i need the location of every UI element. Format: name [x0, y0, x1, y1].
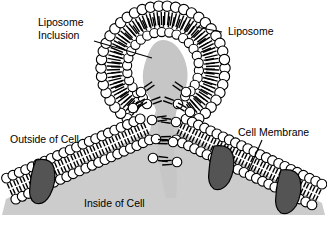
lipid-tail — [306, 184, 308, 189]
lipid-tail — [67, 157, 69, 162]
lipid-tail — [125, 132, 127, 137]
lipid-tail — [319, 190, 321, 195]
lipid-tail — [93, 146, 95, 151]
lipid-tail — [128, 130, 130, 135]
lipid-tail — [192, 129, 194, 134]
lipid-tail — [74, 162, 76, 167]
lipid-tail — [26, 183, 28, 188]
lipid-tail — [61, 160, 63, 165]
lipid-tail — [65, 158, 67, 163]
lipid-tail — [307, 192, 309, 197]
label-inside-of-cell: Inside of Cell — [84, 197, 145, 209]
lipid-head — [317, 179, 327, 189]
lipid-tail — [310, 185, 312, 190]
lipid-tail — [111, 72, 122, 73]
lipid-tail — [89, 155, 91, 160]
lipid-tail — [141, 124, 143, 129]
lipid-tail — [266, 165, 268, 170]
lipid-tail — [211, 138, 213, 143]
lipid-tail — [23, 177, 25, 182]
lipid-tail — [90, 147, 92, 152]
lipid-tail — [312, 187, 314, 192]
lipid-tail — [112, 137, 114, 142]
lipid-tail — [118, 134, 120, 139]
lipid-tail — [80, 151, 82, 156]
lipid-tail — [170, 13, 172, 26]
lipid-tail — [113, 80, 123, 83]
lipid-tail — [103, 141, 105, 146]
lipid-tail — [13, 189, 15, 194]
liposome-fusion-diagram: LiposomeInclusionLiposomeOutside of Cell… — [0, 0, 327, 227]
lipid-tail — [204, 63, 215, 64]
lipid-tail — [23, 184, 25, 189]
lipid-tail — [16, 179, 18, 184]
lipid-tail — [263, 163, 265, 168]
lipid-tail — [186, 126, 188, 131]
lipid-tail — [203, 58, 214, 60]
lipid-tail — [84, 150, 86, 155]
lipid-tail — [131, 129, 133, 134]
lipid-tail — [19, 186, 21, 191]
lipid-tail — [236, 150, 238, 155]
lipid-head — [219, 54, 229, 64]
lipid-tail — [201, 133, 203, 138]
lipid-tail — [162, 164, 172, 165]
lipid-tail — [248, 156, 250, 161]
label-outside-of-cell: Outside of Cell — [10, 133, 79, 145]
lipid-tail — [86, 156, 88, 161]
lipid-tail — [254, 159, 256, 164]
label-liposome: Liposome — [228, 25, 274, 37]
lipid-tail — [57, 169, 59, 174]
lipid-tail — [109, 138, 111, 143]
lipid-head — [181, 87, 191, 97]
lipid-tail — [77, 161, 79, 166]
lipid-tail — [96, 144, 98, 149]
lipid-tail — [16, 187, 18, 192]
lipid-tail — [303, 190, 305, 195]
lipid-head — [185, 107, 195, 117]
lipid-tail — [26, 175, 28, 180]
lipid-tail — [316, 196, 318, 201]
lipid-tail — [58, 161, 60, 166]
lipid-tail — [70, 163, 72, 168]
lipid-tail — [214, 139, 216, 144]
lipid-tail — [135, 127, 137, 132]
lipid-tail — [77, 153, 79, 158]
lipid-tail — [205, 75, 218, 77]
lipid-tail — [86, 148, 88, 153]
lipid-tail — [257, 160, 259, 165]
label-liposome-inclusion-line2: Inclusion — [38, 29, 80, 41]
lipid-tail — [205, 55, 218, 58]
lipid-tail — [242, 153, 244, 158]
lipid-tail — [108, 78, 121, 81]
lipid-tail — [183, 125, 185, 130]
lipid-tail — [313, 195, 315, 200]
lipid-tail — [14, 181, 16, 186]
lipid-tail — [273, 168, 275, 173]
lipid-tail — [71, 155, 73, 160]
lipid-tail — [195, 130, 197, 135]
lipid-tail — [74, 154, 76, 159]
lipid-head — [147, 115, 157, 125]
lipid-tail — [64, 166, 66, 171]
lipid-tail — [275, 169, 277, 174]
lipid-tail — [162, 160, 172, 161]
lipid-tail — [144, 123, 146, 128]
lipid-head — [168, 137, 178, 147]
lipid-tail — [80, 159, 82, 164]
label-cell-membrane: Cell Membrane — [238, 126, 309, 138]
lipid-head — [194, 58, 203, 67]
lipid-tail — [83, 158, 85, 163]
lipid-tail — [260, 162, 262, 167]
lipid-head — [171, 117, 181, 127]
lipid-tail — [61, 167, 63, 172]
lipid-tail — [137, 126, 139, 131]
lipid-tail — [122, 133, 124, 138]
lipid-tail — [159, 16, 160, 27]
lipid-head — [172, 157, 182, 167]
lipid-tail — [199, 132, 201, 137]
label-liposome-inclusion-line1: Liposome — [38, 16, 84, 28]
lipid-tail — [269, 166, 271, 171]
lipid-tail — [205, 135, 207, 140]
lipid-tail — [112, 76, 123, 78]
